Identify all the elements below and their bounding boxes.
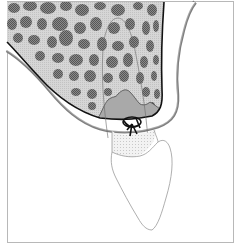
dental-illustration [0,0,237,249]
